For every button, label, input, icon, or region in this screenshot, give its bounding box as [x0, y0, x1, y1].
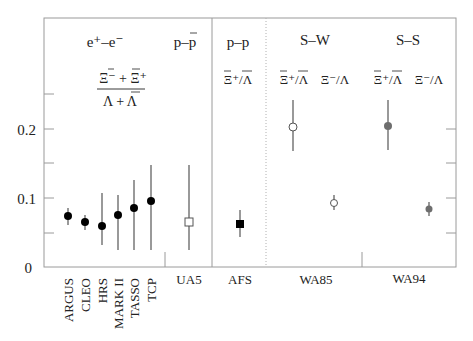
- ss-ratio-labels: Ξ⁺/Λ Ξ⁻/Λ: [374, 71, 444, 87]
- svg-text:p–p: p–p: [174, 34, 197, 50]
- marker-hrs: [98, 222, 106, 230]
- y-tick-label: 0.2: [17, 122, 36, 138]
- error-bars: [68, 100, 429, 250]
- ee-ratio-label: Ξ⁻ + Ξ⁺ Λ + Λ: [97, 69, 147, 109]
- x-label-hrs: HRS: [95, 278, 110, 303]
- header-ee: e⁺–e⁻: [87, 34, 124, 50]
- x-label-argus: ARGUS: [61, 278, 76, 322]
- marker-tasso: [130, 204, 138, 212]
- x-label-wa94: WA94: [392, 271, 426, 286]
- y-axis-ticks-left: [44, 94, 54, 233]
- marker-wa94-ximinus: [426, 206, 433, 213]
- header-pp: p–p: [227, 34, 250, 50]
- svg-text:Ξ⁺/Λ: Ξ⁺/Λ: [374, 72, 403, 87]
- y-axis-ticks-right: [446, 129, 456, 233]
- sw-ratio-labels: Ξ⁺/Λ Ξ⁻/Λ: [280, 71, 350, 87]
- marker-afs: [236, 220, 244, 228]
- marker-tcp: [147, 197, 155, 205]
- xi-lambda-ratio-chart: 0 0.1 0.2 e⁺–e⁻ p–p p–p S–W S–S Ξ⁻ + Ξ⁺ …: [0, 0, 473, 341]
- marker-wa85-xiplus: [289, 123, 297, 131]
- marker-wa94-xiplus: [384, 122, 392, 130]
- x-label-cleo: CLEO: [78, 278, 93, 312]
- svg-text:Λ + Λ: Λ + Λ: [103, 94, 138, 109]
- pp-ratio-label: Ξ⁺/Λ: [224, 71, 253, 87]
- header-ppbar: p–p: [174, 33, 197, 50]
- x-label-tasso: TASSO: [127, 278, 142, 318]
- x-label-afs: AFS: [228, 272, 252, 287]
- svg-text:Ξ⁻/Λ: Ξ⁻/Λ: [415, 72, 444, 87]
- marker-ua5: [185, 218, 193, 226]
- x-label-mark2: MARK II: [111, 278, 126, 329]
- svg-text:Ξ⁻/Λ: Ξ⁻/Λ: [321, 72, 350, 87]
- svg-text:Ξ⁺/Λ: Ξ⁺/Λ: [280, 72, 309, 87]
- header-sw: S–W: [300, 32, 331, 48]
- svg-text:Ξ⁺/Λ: Ξ⁺/Λ: [224, 72, 253, 87]
- svg-text:Ξ⁻ + Ξ⁺: Ξ⁻ + Ξ⁺: [99, 71, 147, 86]
- x-label-ua5: UA5: [176, 272, 201, 287]
- marker-wa85-ximinus: [331, 200, 338, 207]
- header-ss: S–S: [396, 32, 420, 48]
- y-tick-label: 0: [25, 260, 33, 276]
- x-label-wa85: WA85: [299, 272, 332, 287]
- plot-frame: [44, 18, 456, 267]
- marker-cleo: [81, 218, 89, 226]
- y-tick-label: 0.1: [17, 191, 36, 207]
- marker-argus: [64, 212, 72, 220]
- marker-mark2: [114, 211, 122, 219]
- x-label-tcp: TCP: [144, 278, 159, 302]
